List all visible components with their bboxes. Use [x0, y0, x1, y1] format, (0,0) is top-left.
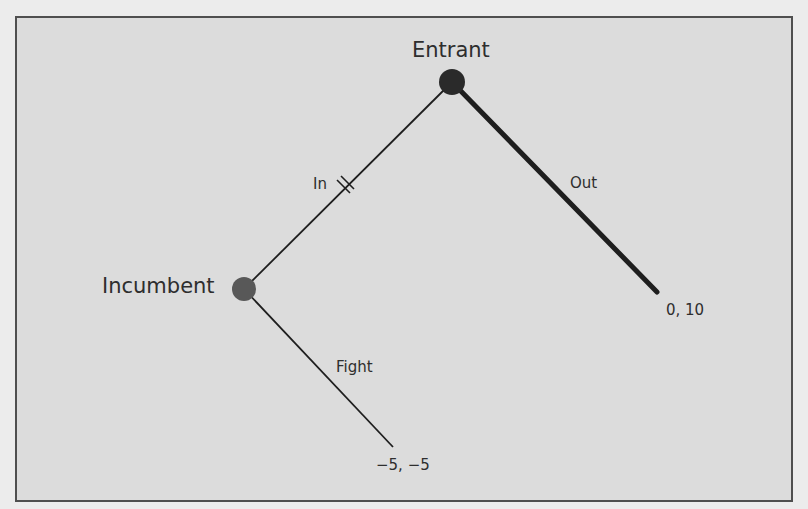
out-action-label: Out: [570, 176, 597, 191]
payoff-out-label: 0, 10: [666, 303, 704, 318]
fight-action-label: Fight: [336, 360, 373, 375]
branch-out: [452, 82, 657, 292]
entrant-node-icon: [439, 69, 465, 95]
payoff-fight-label: −5, −5: [376, 458, 430, 473]
in-action-label: In: [313, 177, 327, 192]
incumbent-node-icon: [232, 277, 256, 301]
double-hash-mark-icon: [337, 176, 354, 193]
branch-in: [244, 82, 452, 289]
game-tree: [0, 0, 808, 509]
entrant-label: Entrant: [412, 40, 490, 61]
incumbent-label: Incumbent: [102, 276, 215, 297]
